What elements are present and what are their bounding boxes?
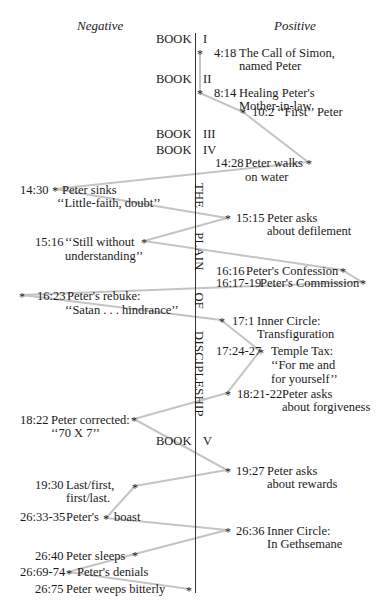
entry-ref: 16:23 bbox=[37, 290, 65, 303]
book-5-numeral: V bbox=[203, 435, 212, 448]
entry-text: first/last. bbox=[66, 492, 110, 505]
entry-text: ‘‘For me and bbox=[271, 359, 335, 372]
entry-ref: 19:30 bbox=[35, 479, 63, 492]
entry-text: for yourself’’ bbox=[271, 373, 338, 386]
entry-ref: 18:21-22 bbox=[237, 388, 282, 401]
axis-word-the: THE bbox=[191, 183, 206, 208]
entry-ref: 15:15 bbox=[236, 212, 264, 225]
entry-ref: 18:22 bbox=[20, 414, 48, 427]
entry-text: ‘‘Still without bbox=[65, 236, 135, 249]
entry-ref: 15:16 bbox=[35, 236, 63, 249]
star-marker: * bbox=[197, 48, 203, 60]
entry-text: In Gethsemane bbox=[267, 538, 342, 551]
entry-text: about forgiveness bbox=[282, 401, 370, 414]
book-1-numeral: I bbox=[203, 33, 207, 46]
star-marker: * bbox=[197, 88, 203, 100]
entry-text: named Peter bbox=[239, 60, 301, 73]
star-marker: * bbox=[103, 513, 109, 525]
book-2-numeral: II bbox=[203, 73, 211, 86]
star-marker: * bbox=[131, 415, 137, 427]
entry-ref: 10:2 bbox=[252, 106, 274, 119]
entry-ref: 17:24-27 bbox=[216, 345, 261, 358]
entry-text: Peter sleeps bbox=[66, 550, 125, 563]
star-marker: * bbox=[186, 585, 192, 597]
entry-ref: 8:14 bbox=[214, 87, 236, 100]
star-marker: * bbox=[225, 466, 231, 478]
book-3-numeral: III bbox=[203, 128, 216, 141]
axis-label-plain-of-discipleship: THEPLAINOFDISCIPLESHIP bbox=[191, 183, 206, 417]
star-marker: * bbox=[360, 278, 366, 290]
entry-text: Peter weeps bitterly bbox=[66, 583, 165, 596]
star-marker: * bbox=[219, 316, 225, 328]
book-5-label: BOOK bbox=[156, 435, 191, 448]
entry-text: ‘‘70 X 7’’ bbox=[51, 427, 100, 440]
entry-ref: 4:18 bbox=[214, 47, 236, 60]
entry-text: Peter's denials bbox=[77, 566, 148, 579]
entry-ref: 14:28 bbox=[215, 157, 243, 170]
entry-ref: 16:17-19 bbox=[216, 277, 261, 290]
book-2-label: BOOK bbox=[156, 73, 191, 86]
star-marker: * bbox=[240, 107, 246, 119]
axis-word-plain: PLAIN bbox=[191, 232, 206, 270]
entry-ref: 26:36 bbox=[236, 525, 264, 538]
entry-text: on water bbox=[245, 171, 288, 184]
entry-text: understanding’’ bbox=[65, 250, 143, 263]
entry-ref: 26:75 bbox=[35, 583, 63, 596]
star-marker: * bbox=[66, 568, 72, 580]
entry-text: Peter's bbox=[66, 511, 99, 524]
star-marker: * bbox=[132, 482, 138, 494]
entry-text: Transfiguration bbox=[257, 328, 334, 341]
book-4-label: BOOK bbox=[156, 144, 191, 157]
entry-text: Temple Tax: bbox=[271, 345, 333, 358]
entry-text: ‘‘Little-faith, doubt’’ bbox=[57, 197, 161, 210]
book-3-label: BOOK bbox=[156, 128, 191, 141]
star-marker: * bbox=[258, 347, 264, 359]
star-marker: * bbox=[306, 158, 312, 170]
star-marker: * bbox=[132, 550, 138, 562]
entry-ref: 14:30 bbox=[20, 184, 48, 197]
entry-text: Peter's rebuke: bbox=[67, 290, 140, 303]
entry-ref: 19:27 bbox=[236, 465, 264, 478]
entry-text: about rewards bbox=[267, 478, 337, 491]
entry-text: about defilement bbox=[267, 225, 351, 238]
entry-ref: 26:69-74 bbox=[20, 566, 65, 579]
star-marker: * bbox=[141, 237, 147, 249]
entry-ref: 26:40 bbox=[35, 550, 63, 563]
star-marker: * bbox=[225, 389, 231, 401]
book-1-label: BOOK bbox=[156, 33, 191, 46]
entry-text: ‘‘First’’ Peter bbox=[277, 106, 343, 119]
axis-word-discipleship: DISCIPLESHIP bbox=[191, 331, 206, 417]
entry-text: Peter's Commission bbox=[260, 277, 359, 290]
entry-ref: 17:1 bbox=[232, 315, 254, 328]
star-marker: * bbox=[225, 526, 231, 538]
entry-text: Peter walks bbox=[245, 157, 303, 170]
star-marker: * bbox=[225, 213, 231, 225]
entry-text: boast bbox=[114, 511, 140, 524]
entry-text: ‘‘Satan . . . hindrance’’ bbox=[65, 304, 179, 317]
axis-word-of: OF bbox=[191, 293, 206, 310]
entry-ref: 26:33-35 bbox=[20, 511, 65, 524]
star-marker: * bbox=[19, 291, 25, 303]
